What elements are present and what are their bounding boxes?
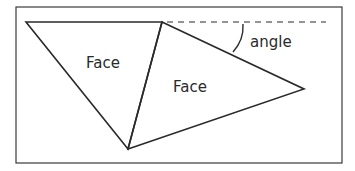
face-left-triangle	[26, 22, 162, 149]
angle-arc	[233, 24, 243, 52]
faces-angle-diagram: Face Face angle	[0, 0, 355, 171]
angle-label: angle	[250, 33, 292, 51]
face-right-label: Face	[173, 78, 207, 96]
face-left-label: Face	[86, 54, 120, 72]
